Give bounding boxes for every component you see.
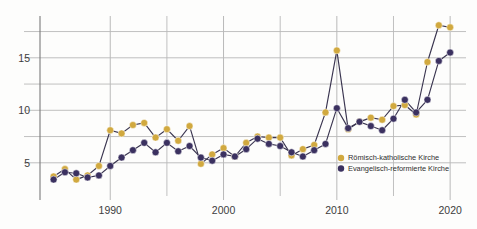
data-point-series-1 — [356, 118, 363, 125]
data-point-series-0 — [95, 162, 102, 169]
data-point-series-1 — [401, 96, 408, 103]
y-axis-tick-label: 5 — [24, 157, 30, 169]
data-point-series-1 — [141, 139, 148, 146]
data-point-series-1 — [367, 123, 374, 130]
data-point-series-0 — [333, 47, 340, 54]
data-point-series-1 — [186, 143, 193, 150]
data-point-series-1 — [345, 125, 352, 132]
data-point-series-1 — [435, 57, 442, 64]
data-point-series-1 — [390, 115, 397, 122]
data-point-series-0 — [175, 137, 182, 144]
data-point-series-0 — [367, 114, 374, 121]
data-point-series-1 — [424, 96, 431, 103]
data-point-series-0 — [299, 146, 306, 153]
data-point-series-1 — [288, 149, 295, 156]
data-point-series-0 — [379, 116, 386, 123]
data-point-series-1 — [197, 154, 204, 161]
legend-label-0: Römisch-katholische Kirche — [348, 153, 439, 162]
data-point-series-1 — [95, 172, 102, 179]
x-axis-tick-label: 2000 — [212, 204, 236, 216]
data-point-series-0 — [209, 151, 216, 158]
data-point-series-1 — [50, 176, 57, 183]
data-point-series-0 — [197, 160, 204, 167]
data-point-series-0 — [243, 139, 250, 146]
data-point-series-1 — [209, 157, 216, 164]
data-point-series-0 — [129, 122, 136, 129]
data-point-series-0 — [220, 145, 227, 152]
data-point-series-1 — [322, 140, 329, 147]
x-axis-tick-label: 2010 — [325, 204, 349, 216]
data-point-series-0 — [265, 134, 272, 141]
data-point-series-0 — [390, 103, 397, 110]
y-axis-tick-label: 15 — [18, 52, 30, 64]
chart-legend: Römisch-katholische KircheEvangelisch-re… — [338, 153, 449, 173]
x-axis-tick-label: 2020 — [438, 204, 462, 216]
y-axis-tick-label: 10 — [18, 104, 30, 116]
data-point-series-0 — [163, 126, 170, 133]
data-point-series-0 — [118, 130, 125, 137]
data-point-series-1 — [413, 109, 420, 116]
data-point-series-1 — [447, 49, 454, 56]
data-point-series-1 — [84, 174, 91, 181]
data-point-series-1 — [107, 162, 114, 169]
data-point-series-1 — [220, 151, 227, 158]
data-point-series-1 — [118, 154, 125, 161]
data-point-series-1 — [73, 170, 80, 177]
legend-label-1: Evangelisch-reformierte Kirche — [348, 164, 449, 173]
data-point-series-1 — [243, 146, 250, 153]
x-axis-tick-label: 1990 — [99, 204, 123, 216]
data-point-series-0 — [447, 24, 454, 31]
data-point-series-0 — [435, 22, 442, 29]
data-point-series-1 — [265, 140, 272, 147]
data-point-series-0 — [186, 123, 193, 130]
data-point-series-1 — [311, 147, 318, 154]
data-point-series-0 — [322, 109, 329, 116]
data-point-series-0 — [424, 59, 431, 66]
data-point-series-1 — [379, 127, 386, 134]
line-chart: 51015 1990200020102020 Römisch-katholisc… — [0, 0, 477, 229]
legend-marker-0 — [338, 155, 344, 161]
data-point-series-1 — [163, 139, 170, 146]
data-point-series-1 — [299, 153, 306, 160]
data-point-series-1 — [254, 135, 261, 142]
legend-marker-1 — [338, 165, 344, 171]
data-point-series-1 — [231, 153, 238, 160]
data-point-series-0 — [141, 119, 148, 126]
data-point-series-0 — [107, 127, 114, 134]
data-point-series-1 — [129, 147, 136, 154]
data-point-series-0 — [73, 176, 80, 183]
data-point-series-1 — [175, 148, 182, 155]
data-point-series-1 — [277, 143, 284, 150]
data-point-series-1 — [333, 105, 340, 112]
data-point-series-0 — [277, 134, 284, 141]
data-point-series-1 — [61, 169, 68, 176]
chart-background — [0, 0, 477, 229]
data-point-series-0 — [152, 134, 159, 141]
data-point-series-1 — [152, 149, 159, 156]
chart-container: 51015 1990200020102020 Römisch-katholisc… — [0, 0, 477, 229]
